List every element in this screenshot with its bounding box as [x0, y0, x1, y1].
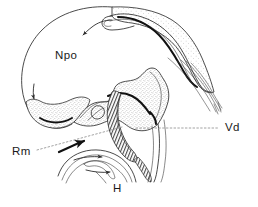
hatched-band-lower-tail: [134, 157, 151, 182]
right-duct-outer: [154, 124, 160, 182]
right-duct-outer-2: [161, 120, 166, 182]
label-rm: Rm: [12, 145, 31, 157]
npo-curved-arrow: [83, 20, 112, 35]
label-vd: Vd: [225, 121, 240, 133]
anatomical-figure: Npo Vd Rm H: [0, 0, 258, 207]
lower-fold-2: [62, 155, 132, 182]
lower-fold-hook: [96, 172, 106, 183]
npo-left-arrow: [33, 84, 34, 99]
figure-canvas: Npo Vd Rm H: [0, 0, 258, 207]
label-npo: Npo: [55, 49, 77, 61]
label-h: H: [113, 182, 122, 194]
lower-fold-inner-loop: [84, 161, 115, 179]
